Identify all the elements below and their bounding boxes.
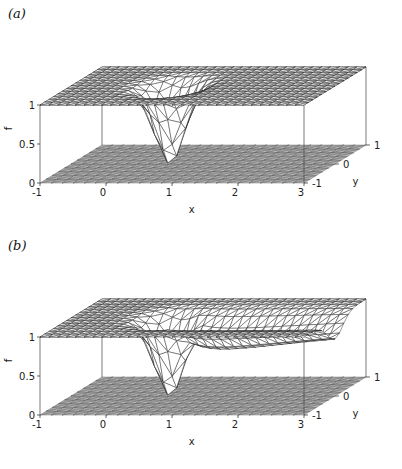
panel-b: -10123-10100.51xyf (b) xyxy=(0,232,402,462)
x-tick-label: 0 xyxy=(100,419,106,430)
panel-label-b: (b) xyxy=(8,238,26,253)
z-axis-label: f xyxy=(3,126,14,130)
y-axis-label: y xyxy=(352,408,358,419)
x-tick-label: 3 xyxy=(298,419,304,430)
z-axis-label: f xyxy=(3,358,14,362)
surface-plot-a: -10123-10100.51xyf xyxy=(0,0,402,230)
y-tick-label: -1 xyxy=(312,410,322,421)
plot-group: -10123-10100.51xyf xyxy=(3,299,380,447)
x-tick-label: 2 xyxy=(232,419,238,430)
y-tick-label: -1 xyxy=(312,178,322,189)
x-tick-label: 3 xyxy=(298,187,304,198)
z-tick-label: 1 xyxy=(29,100,35,111)
z-tick-label: 0.5 xyxy=(19,139,35,150)
x-tick-label: 1 xyxy=(166,187,172,198)
y-tick-label: 1 xyxy=(374,140,380,151)
z-tick-label: 1 xyxy=(29,332,35,343)
z-tick-label: 0.5 xyxy=(19,371,35,382)
z-tick-label: 0 xyxy=(29,410,35,421)
z-tick-label: 0 xyxy=(29,178,35,189)
y-tick-label: 1 xyxy=(374,372,380,383)
y-tick-label: 0 xyxy=(343,391,349,402)
x-axis-label: x xyxy=(189,436,195,447)
plot-group: -10123-10100.51xyf xyxy=(3,67,380,215)
x-tick-label: 0 xyxy=(100,187,106,198)
panel-a: -10123-10100.51xyf (a) xyxy=(0,0,402,230)
surface-plot-b: -10123-10100.51xyf xyxy=(0,232,402,462)
x-axis-label: x xyxy=(189,204,195,215)
y-tick-label: 0 xyxy=(343,159,349,170)
y-axis-label: y xyxy=(352,176,358,187)
x-tick-label: 2 xyxy=(232,187,238,198)
panel-label-a: (a) xyxy=(8,6,26,21)
x-tick-label: 1 xyxy=(166,419,172,430)
